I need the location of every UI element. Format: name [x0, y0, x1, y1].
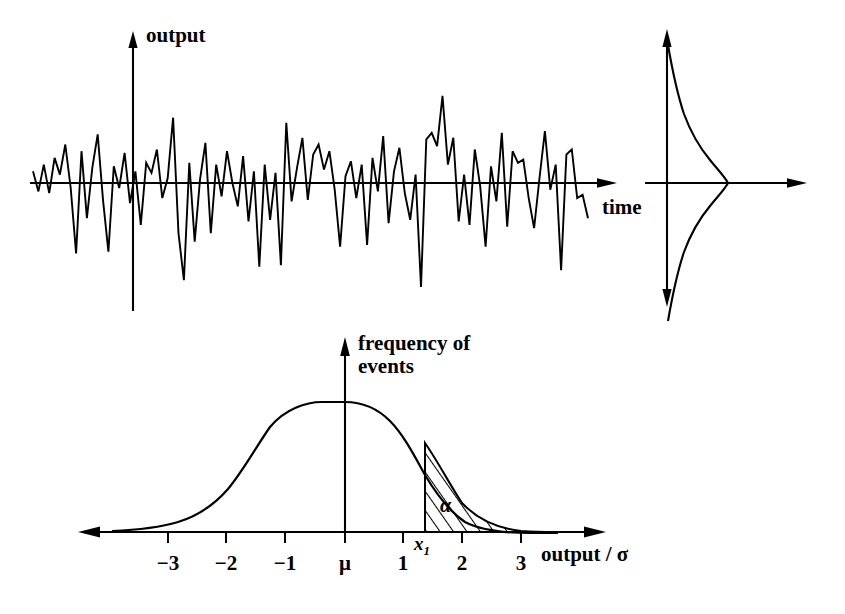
panel-amplitude-distribution [645, 29, 807, 321]
figure-canvas: output time frequency of events output /… [0, 0, 845, 614]
tick-label-3: 3 [501, 551, 541, 576]
panel-noise-time-series [30, 31, 617, 311]
histogram-y-axis-label: frequency of events [358, 332, 470, 377]
tick-label-minus-3: −3 [148, 551, 188, 576]
alpha-region-label: α [440, 495, 451, 517]
tick-label-mu: μ [325, 551, 365, 576]
signal-x-axis-label: time [602, 196, 642, 219]
histogram-x-axis-label: output / σ [541, 543, 628, 566]
histogram-x-ticks [168, 532, 521, 543]
threshold-label-subscript: 1 [424, 543, 430, 558]
histogram-y-axis-label-line2: events [358, 354, 414, 378]
noise-trace [33, 96, 588, 287]
signal-y-axis-label: output [146, 24, 206, 47]
tick-label-2: 2 [442, 551, 482, 576]
figure-vector-graphics [0, 0, 845, 614]
histogram-y-axis-label-line1: frequency of [358, 331, 470, 355]
gaussian-curve [112, 402, 558, 533]
histogram-y-axis [340, 337, 350, 532]
tick-label-1: 1 [383, 551, 423, 576]
tick-label-minus-2: −2 [206, 551, 246, 576]
side-dist-vertical-axis [662, 29, 671, 307]
panel-frequency-distribution [78, 337, 606, 543]
tick-label-minus-1: −1 [265, 551, 305, 576]
signal-y-axis [128, 31, 137, 311]
alpha-shaded-region [418, 435, 568, 540]
